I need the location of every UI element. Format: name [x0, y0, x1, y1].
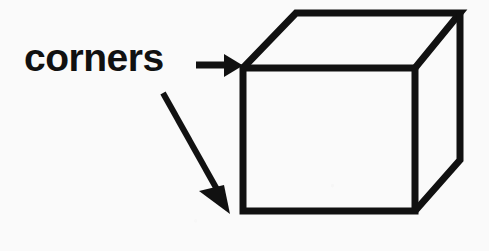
- diagonal-arrow-shaft: [163, 93, 219, 193]
- arrow-down-right-icon: [199, 185, 230, 214]
- diagram-page: corners: [0, 0, 489, 251]
- horizontal-pointer-arrow: [196, 54, 243, 77]
- cube-top-face-receding-edges: [243, 13, 460, 68]
- cube-front-face-edges: [243, 68, 415, 211]
- cube-diagram-svg: [0, 0, 489, 251]
- cube-shape: [243, 13, 460, 211]
- diagonal-pointer-arrow: [163, 93, 230, 214]
